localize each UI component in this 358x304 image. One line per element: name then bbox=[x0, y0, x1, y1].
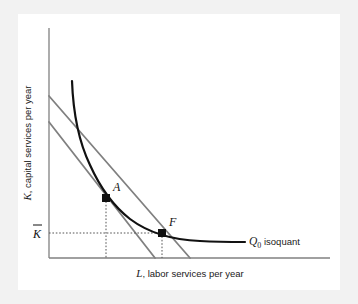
isoquant-curve-label: Q0 isoquant bbox=[249, 235, 300, 250]
isoquant-curve-group bbox=[72, 81, 245, 242]
point-marker-a bbox=[102, 194, 110, 202]
kbar-label-text: K bbox=[32, 227, 42, 241]
axes-group bbox=[49, 28, 330, 258]
isocost-line-upper bbox=[49, 96, 190, 258]
kbar-axis-label: K bbox=[32, 225, 42, 241]
x-axis-title-var: L bbox=[135, 267, 142, 279]
point-label-f: F bbox=[168, 215, 177, 229]
y-axis-title: K, capital services per year bbox=[21, 85, 33, 201]
isoquant-isocost-plot: A F K Q0 isoquant L, labor services per … bbox=[0, 0, 358, 304]
isocost-line-lower bbox=[49, 122, 155, 258]
x-axis-title: L, labor services per year bbox=[135, 267, 244, 279]
x-axis-title-rest: , labor services per year bbox=[142, 268, 243, 279]
point-label-a: A bbox=[112, 180, 121, 194]
figure-container: A F K Q0 isoquant L, labor services per … bbox=[0, 0, 358, 304]
isoquant-label-rest: isoquant bbox=[261, 236, 300, 247]
isoquant-curve-q0 bbox=[72, 81, 245, 242]
point-marker-f bbox=[158, 229, 166, 237]
isocost-lines-group bbox=[49, 96, 190, 258]
y-axis-title-rest: , capital services per year bbox=[22, 85, 33, 193]
